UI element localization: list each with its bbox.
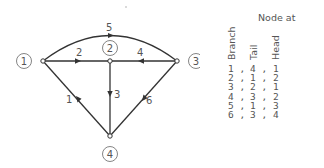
svg-text:1: 1 — [21, 56, 27, 67]
branch-1: 1 — [43, 61, 110, 136]
junction-node-1 — [41, 59, 45, 63]
arrow-right-icon — [75, 58, 81, 63]
network-graph: 5 2 4 3 1 6 1 2 — [0, 0, 200, 168]
branch-label: 4 — [137, 47, 143, 58]
stray-dot — [125, 6, 127, 8]
branch-3: 3 — [107, 61, 120, 136]
branch-label: 1 — [66, 94, 72, 105]
node-label-4: 4 — [103, 147, 118, 162]
svg-text:4: 4 — [107, 149, 113, 160]
arrow-right-icon — [108, 33, 114, 38]
svg-text:2: 2 — [107, 43, 113, 54]
node-label-2: 2 — [103, 41, 118, 56]
table-header-node-at: Node at — [258, 12, 295, 23]
branch-label: 6 — [146, 95, 152, 106]
branch-node-table: Node at Branch Tail Head 1 , 4 , 1 2 , 1… — [228, 12, 324, 132]
junction-node-3 — [175, 59, 179, 63]
column-header-tail: Tail — [248, 45, 259, 60]
node-label-3: 3 — [189, 54, 201, 69]
junction-node-2 — [108, 59, 112, 63]
branch-2: 2 — [43, 47, 110, 64]
junction-node-4 — [108, 134, 112, 138]
branch-label: 5 — [106, 22, 112, 33]
column-header-head: Head — [270, 35, 281, 60]
branch-label: 2 — [76, 47, 82, 58]
branch-label: 3 — [114, 89, 120, 100]
node-label-1: 1 — [17, 54, 32, 69]
svg-text:3: 3 — [193, 56, 199, 67]
branch-4: 4 — [110, 47, 177, 64]
column-header-branch: Branch — [226, 26, 237, 60]
arrow-down-icon — [107, 91, 112, 97]
arrow-left-icon — [138, 58, 144, 63]
